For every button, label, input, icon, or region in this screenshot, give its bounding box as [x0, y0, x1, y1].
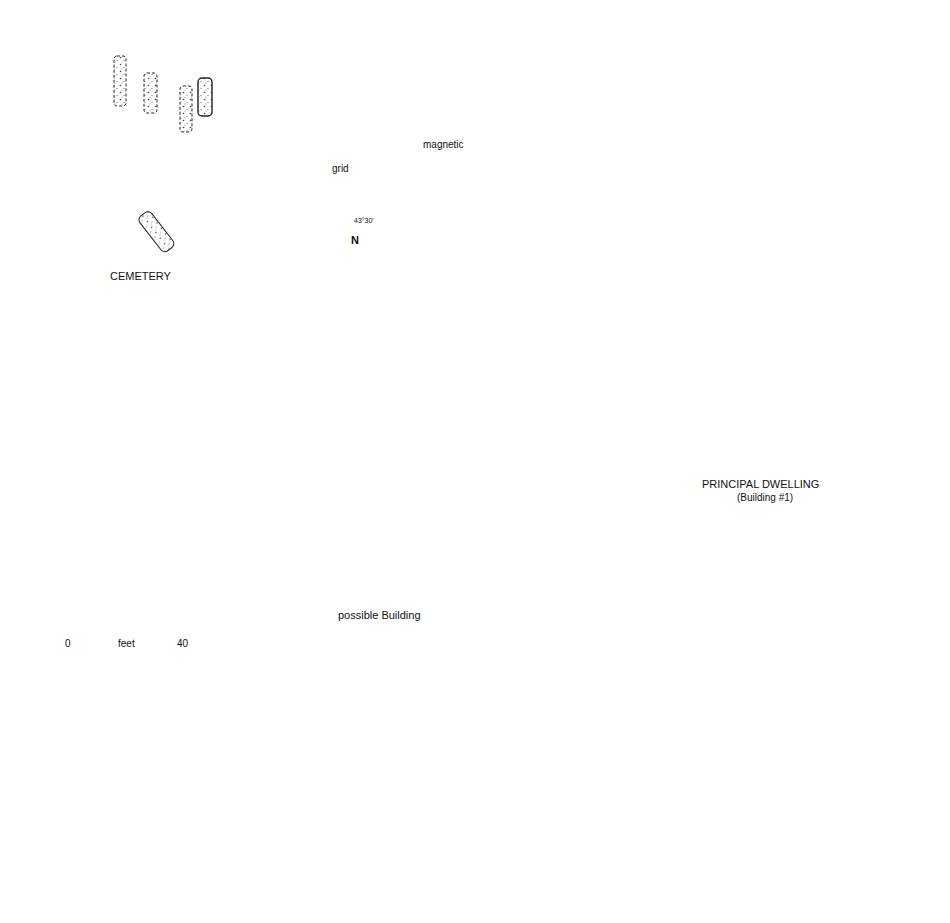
scale-end: 40 [177, 638, 188, 649]
cemetery-label: CEMETERY [110, 270, 171, 282]
principal-dwelling-label: PRINCIPAL DWELLING [702, 478, 819, 490]
declination-label: 43°30' [354, 217, 374, 224]
north-letter: N [351, 234, 359, 246]
grave [137, 210, 176, 254]
possible-building-label: possible Building [338, 609, 421, 621]
magnetic-north-label: magnetic [423, 139, 464, 150]
grid-north-label: grid [332, 163, 349, 174]
site-map [0, 0, 950, 923]
scale-unit: feet [118, 638, 135, 649]
scale-start: 0 [65, 638, 71, 649]
principal-dwelling-sublabel: (Building #1) [737, 492, 793, 503]
grave-cluster-north [114, 56, 212, 132]
